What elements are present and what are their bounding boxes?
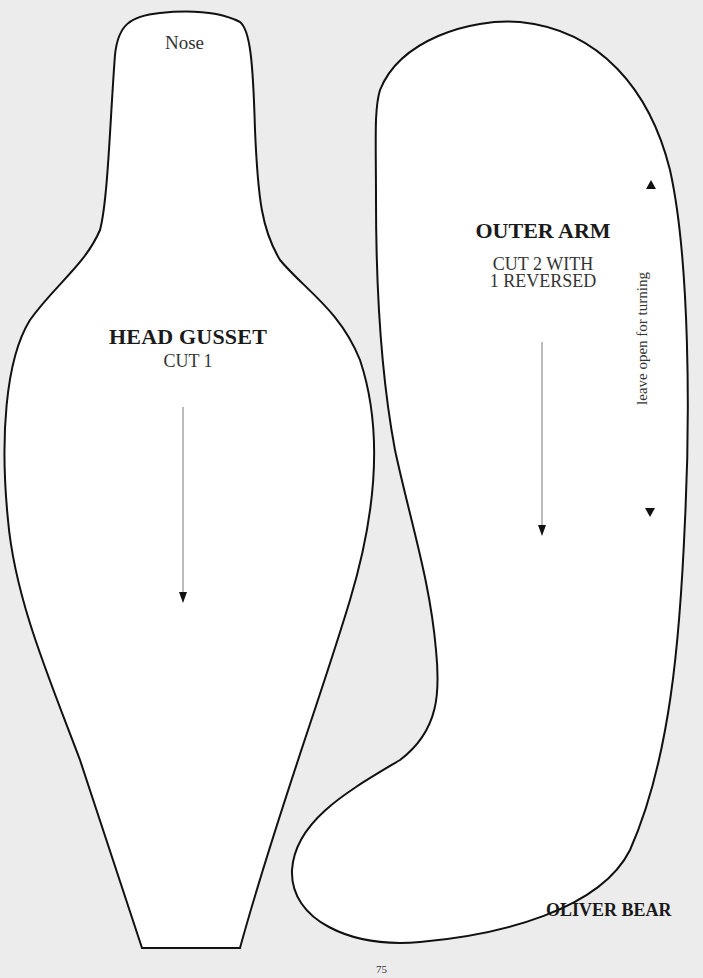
head-gusset-cut-instruction: CUT 1	[106, 351, 270, 372]
outer-arm-title: OUTER ARM	[468, 218, 618, 244]
outer-arm-cut-instruction: CUT 2 WITH 1 REVERSED	[468, 256, 618, 290]
page-number: 75	[376, 963, 387, 975]
head-gusset-outline	[4, 12, 373, 948]
opening-note: leave open for turning	[634, 272, 651, 405]
pattern-sheet	[0, 0, 703, 978]
outer-arm-cut-line2: 1 REVERSED	[468, 273, 618, 290]
nose-label: Nose	[165, 32, 204, 54]
head-gusset-title: HEAD GUSSET	[106, 324, 270, 350]
footer-title: OLIVER BEAR	[546, 900, 672, 921]
